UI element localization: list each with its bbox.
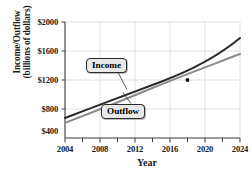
intersection-point-marker <box>186 78 190 82</box>
y-tick-label-800: $800 <box>22 104 58 114</box>
leader-line-income <box>118 73 127 90</box>
x-tick-label-2004: 2004 <box>50 144 80 154</box>
x-tick-label-2012: 2012 <box>120 144 150 154</box>
chart-container: $2000 $1600 $1200 $800 $400 2004 2008 20… <box>0 0 252 173</box>
x-axis-title-text: Year <box>95 157 157 168</box>
x-axis-title: Year <box>0 157 252 168</box>
x-tick-label-2016: 2016 <box>155 144 185 154</box>
x-axis-ticks <box>65 138 240 143</box>
series-label-outflow: Outflow <box>101 104 145 119</box>
y-tick-label-2000: $2000 <box>22 17 58 27</box>
series-label-income: Income <box>86 58 127 73</box>
series-line-income <box>65 38 240 118</box>
y-tick-label-400: $400 <box>22 126 58 136</box>
x-tick-label-2024: 2024 <box>225 144 252 154</box>
x-tick-label-2020: 2020 <box>190 144 220 154</box>
y-tick-label-1200: $1200 <box>22 75 58 85</box>
x-tick-label-2008: 2008 <box>85 144 115 154</box>
y-tick-label-1600: $1600 <box>22 46 58 56</box>
